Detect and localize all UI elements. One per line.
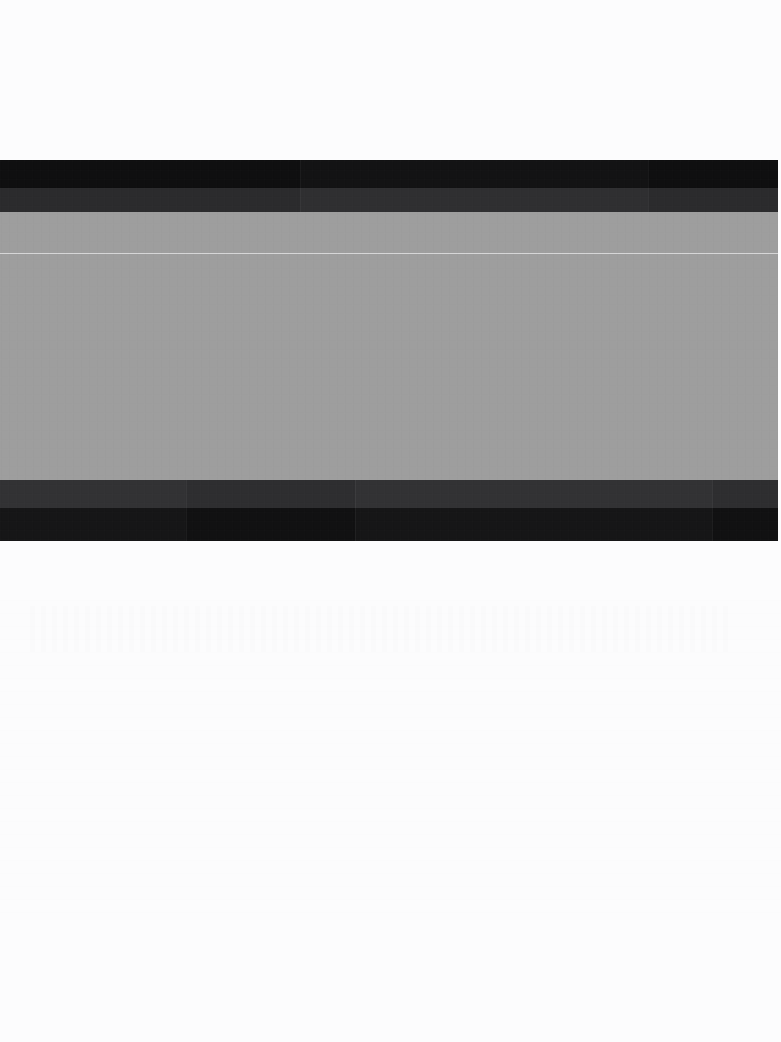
- header-seam-1: [300, 160, 301, 212]
- compression-ghost-artifact: [30, 606, 730, 652]
- body-divider: [0, 253, 778, 254]
- footer-seam-3: [712, 480, 713, 541]
- header-seam-2: [648, 160, 649, 212]
- footer-band-secondary[interactable]: [0, 480, 778, 508]
- header-band-secondary[interactable]: [0, 188, 778, 212]
- body-region[interactable]: [0, 212, 778, 480]
- lower-blank-region: [0, 600, 781, 920]
- footer-band-primary[interactable]: [0, 508, 778, 541]
- page-background: [0, 0, 781, 1042]
- footer-seam-2: [355, 480, 356, 541]
- footer-seam-1: [186, 480, 187, 541]
- header-band-primary[interactable]: [0, 160, 778, 188]
- horizontal-panel[interactable]: [0, 160, 778, 541]
